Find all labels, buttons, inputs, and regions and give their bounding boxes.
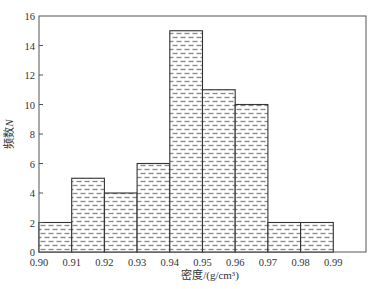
histogram-bar: [104, 193, 137, 252]
histogram-bar: [203, 90, 236, 252]
y-tick-label: 8: [30, 129, 35, 140]
histogram-bar: [235, 105, 268, 253]
y-tick-label: 6: [30, 159, 35, 170]
y-tick-label: 16: [25, 11, 36, 22]
histogram-bar: [301, 223, 334, 253]
histogram-bar: [137, 164, 170, 253]
y-tick-label: 2: [30, 218, 35, 229]
histogram-bar: [170, 31, 203, 252]
x-axis-title: 密度/(g/cm³): [181, 268, 239, 282]
x-axis: 0.900.910.920.930.940.950.960.970.980.99: [30, 257, 343, 268]
histogram-bar: [72, 178, 105, 252]
bars-group: [39, 31, 333, 252]
y-tick-label: 10: [25, 100, 36, 111]
histogram-bar: [39, 223, 72, 253]
x-tick-label: 0.90: [30, 257, 48, 268]
x-tick-label: 0.99: [324, 257, 342, 268]
x-tick-label: 0.93: [128, 257, 146, 268]
y-axis-title: 频数N: [2, 119, 15, 149]
x-tick-label: 0.95: [193, 257, 211, 268]
histogram-chart: 0246810121416 0.900.910.920.930.940.950.…: [0, 0, 374, 289]
y-tick-label: 14: [25, 41, 36, 52]
y-tick-label: 4: [30, 188, 36, 199]
y-tick-label: 12: [25, 70, 36, 81]
x-tick-label: 0.98: [291, 257, 309, 268]
x-tick-label: 0.97: [259, 257, 277, 268]
x-tick-label: 0.92: [95, 257, 113, 268]
y-axis: 0246810121416: [25, 11, 44, 258]
x-tick-label: 0.91: [63, 257, 81, 268]
x-tick-label: 0.94: [161, 257, 180, 268]
x-tick-label: 0.96: [226, 257, 244, 268]
histogram-bar: [268, 223, 301, 253]
